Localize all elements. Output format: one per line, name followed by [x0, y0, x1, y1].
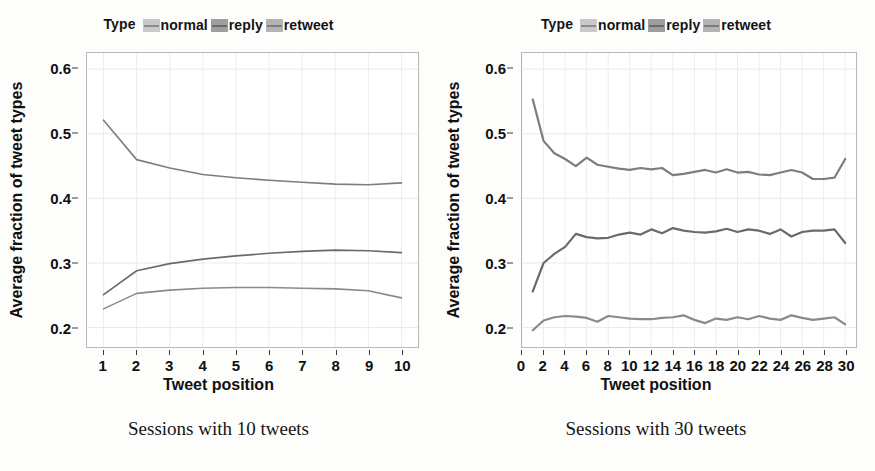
plot-lines-left [87, 53, 418, 347]
series-line-normal [104, 288, 402, 309]
y-tick-label: 0.3 [50, 255, 71, 272]
x-tick-mark [336, 350, 337, 355]
y-tick-label: 0.6 [485, 60, 506, 77]
panel-row: Typenormalreplyretweet Average fraction … [0, 0, 875, 410]
x-tick-mark [673, 350, 674, 355]
series-line-reply [533, 228, 845, 291]
legend-item-normal[interactable]: normal [140, 17, 208, 33]
x-tick-mark [564, 350, 565, 355]
y-tick-label: 0.2 [50, 320, 71, 337]
x-tick-mark [521, 350, 522, 355]
x-tick-mark [302, 350, 303, 355]
x-tick-label: 4 [198, 357, 206, 374]
legend-label-normal: normal [598, 17, 645, 33]
x-tick-mark [803, 350, 804, 355]
x-tick-mark [738, 350, 739, 355]
x-tick-label: 9 [365, 357, 373, 374]
y-axis-ticks-left: 0.20.30.40.50.6 [32, 52, 78, 348]
legend-item-reply[interactable]: reply [645, 17, 700, 33]
x-tick-mark [402, 350, 403, 355]
legend-item-retweet[interactable]: retweet [263, 17, 334, 33]
x-tick-label: 2 [132, 357, 140, 374]
x-tick-label: 7 [298, 357, 306, 374]
series-line-retweet [533, 100, 845, 179]
x-tick-label: 10 [394, 357, 411, 374]
y-tick-mark [72, 68, 78, 69]
y-tick-label: 0.5 [485, 125, 506, 142]
legend-swatch-reply-icon [648, 19, 665, 32]
caption-row: Sessions with 10 tweets Sessions with 30… [0, 410, 875, 471]
x-tick-label: 18 [708, 357, 725, 374]
x-tick-mark [136, 350, 137, 355]
figure-container: Typenormalreplyretweet Average fraction … [0, 0, 875, 471]
x-tick-mark [269, 350, 270, 355]
x-tick-label: 8 [604, 357, 612, 374]
x-tick-label: 16 [686, 357, 703, 374]
legend-swatch-normal-icon [143, 19, 160, 32]
x-tick-mark [236, 350, 237, 355]
legend-item-normal[interactable]: normal [577, 17, 645, 33]
x-tick-mark [543, 350, 544, 355]
y-axis-ticks-right: 0.20.30.40.50.6 [467, 52, 513, 348]
chart-panel-left: Typenormalreplyretweet Average fraction … [0, 0, 437, 410]
legend-item-retweet[interactable]: retweet [700, 17, 771, 33]
y-tick-mark [507, 133, 513, 134]
plot-area-right [521, 52, 857, 348]
legend-right: Typenormalreplyretweet [437, 16, 875, 33]
legend-label-retweet: retweet [721, 17, 771, 33]
x-tick-mark [716, 350, 717, 355]
legend-swatch-retweet-icon [703, 19, 720, 32]
y-tick-label: 0.4 [485, 190, 506, 207]
x-tick-mark [824, 350, 825, 355]
x-tick-mark [651, 350, 652, 355]
x-tick-label: 14 [664, 357, 681, 374]
y-axis-title-left: Average fraction of tweet types [6, 52, 28, 348]
x-tick-mark [781, 350, 782, 355]
y-axis-title-right: Average fraction of tweet types [443, 52, 465, 348]
y-axis-title-left-text: Average fraction of tweet types [8, 82, 26, 319]
legend-label-reply: reply [666, 17, 700, 33]
x-tick-mark [586, 350, 587, 355]
legend-label-retweet: retweet [284, 17, 334, 33]
x-tick-label: 6 [265, 357, 273, 374]
caption-left: Sessions with 10 tweets [0, 410, 437, 471]
y-tick-mark [72, 328, 78, 329]
chart-panel-right: Typenormalreplyretweet Average fraction … [437, 0, 875, 410]
x-tick-label: 10 [621, 357, 638, 374]
x-axis-ticks-left: 12345678910 [86, 350, 419, 372]
x-tick-label: 26 [794, 357, 811, 374]
x-tick-label: 1 [98, 357, 106, 374]
caption-right: Sessions with 30 tweets [437, 410, 875, 471]
x-tick-mark [369, 350, 370, 355]
legend-swatch-normal-icon [580, 19, 597, 32]
x-axis-title-left: Tweet position [0, 376, 437, 394]
legend-item-reply[interactable]: reply [208, 17, 263, 33]
y-tick-mark [507, 68, 513, 69]
x-tick-mark [203, 350, 204, 355]
x-tick-label: 30 [838, 357, 855, 374]
legend-label-reply: reply [229, 17, 263, 33]
plot-lines-right [522, 53, 856, 347]
x-tick-mark [608, 350, 609, 355]
plot-area-left [86, 52, 419, 348]
x-tick-label: 24 [773, 357, 790, 374]
series-line-retweet [104, 120, 402, 185]
y-tick-mark [72, 133, 78, 134]
x-tick-label: 20 [729, 357, 746, 374]
x-tick-mark [759, 350, 760, 355]
y-tick-mark [507, 328, 513, 329]
legend-swatch-retweet-icon [266, 19, 283, 32]
x-tick-label: 6 [582, 357, 590, 374]
y-axis-title-right-text: Average fraction of tweet types [445, 82, 463, 319]
legend-swatch-reply-icon [211, 19, 228, 32]
x-tick-label: 0 [517, 357, 525, 374]
y-tick-mark [507, 198, 513, 199]
y-tick-label: 0.2 [485, 320, 506, 337]
y-tick-label: 0.6 [50, 60, 71, 77]
x-tick-label: 2 [539, 357, 547, 374]
legend-title: Type [541, 16, 573, 32]
y-tick-mark [72, 263, 78, 264]
y-tick-label: 0.5 [50, 125, 71, 142]
y-tick-mark [72, 198, 78, 199]
x-tick-label: 8 [332, 357, 340, 374]
